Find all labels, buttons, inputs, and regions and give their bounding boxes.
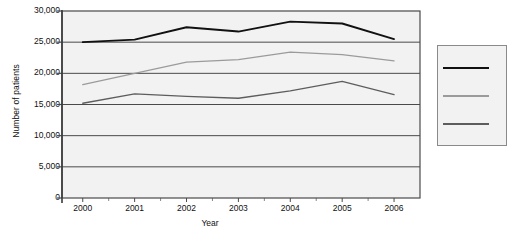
legend-item-1: [443, 62, 505, 74]
x-tick-label: 2002: [167, 203, 207, 213]
legend-item-3: [443, 118, 505, 130]
legend-item-2: [443, 90, 505, 102]
x-tick-label: 2001: [115, 203, 155, 213]
x-tick-label: 2000: [63, 203, 103, 213]
x-tick-label: 2003: [218, 203, 258, 213]
x-tick-label: 2006: [374, 203, 414, 213]
legend-line-swatch: [443, 67, 489, 69]
x-axis-tick-labels: 2000200120022003200420052006: [0, 203, 485, 217]
x-tick-label: 2004: [270, 203, 310, 213]
legend-line-swatch: [443, 123, 489, 125]
chart-legend: [437, 45, 507, 146]
x-tick-label: 2005: [322, 203, 362, 213]
legend-line-swatch: [443, 95, 489, 97]
x-axis-title: Year: [0, 218, 420, 228]
